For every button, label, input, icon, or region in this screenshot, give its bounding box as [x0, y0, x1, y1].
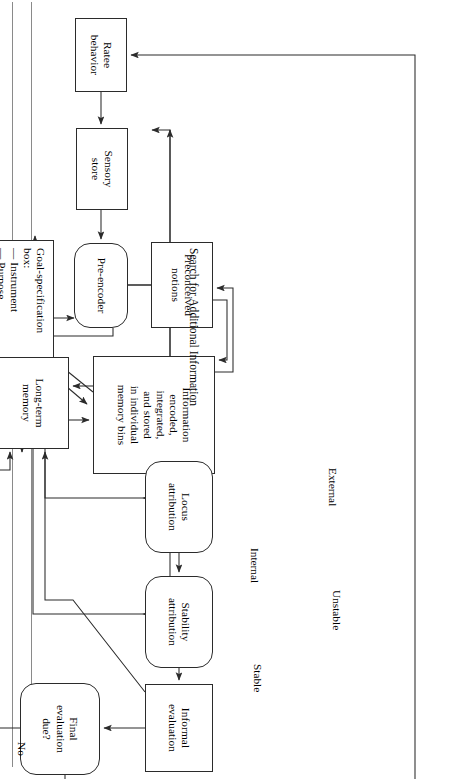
node-sensory-store[interactable]: Sensorystore	[76, 128, 128, 210]
node-label: Rateebehavior	[88, 35, 114, 75]
node-label: Pre-encoder	[94, 258, 107, 314]
node-label: Informationencoded,integrated,and stored…	[115, 385, 194, 445]
node-stability-attribution[interactable]: Stabilityattribution	[145, 576, 213, 668]
edge-label-external: External	[327, 468, 339, 506]
node-locus-attribution[interactable]: Locusattribution	[145, 461, 213, 553]
node-long-term-memory[interactable]: Long-termmemory	[0, 357, 69, 449]
node-label: Informalevaluation	[166, 704, 192, 752]
node-label: Goal-specificationbox:— Instrument— Purp…	[0, 248, 47, 333]
search-channel-label: Search for Additional Information	[186, 248, 199, 406]
node-preconceived-notions[interactable]: Preconceivednotions	[151, 242, 213, 328]
node-label: Long-termmemory	[20, 378, 46, 427]
node-label: Sensorystore	[89, 150, 115, 187]
node-ratee-behavior[interactable]: Rateebehavior	[75, 18, 127, 92]
edge-label-no: No	[16, 742, 28, 756]
node-final-evaluation-due[interactable]: Finalevaluationdue?	[20, 683, 100, 775]
node-label: Finalevaluationdue?	[40, 705, 79, 753]
node-pre-encoder[interactable]: Pre-encoder	[74, 243, 128, 328]
node-goal-specification-box[interactable]: Goal-specificationbox:— Instrument— Purp…	[0, 240, 54, 370]
node-label: Locusattribution	[166, 483, 192, 531]
edge-label-internal: Internal	[249, 548, 261, 583]
edge-label-stable: Stable	[252, 664, 264, 692]
edge-label-unstable: Unstable	[331, 590, 343, 630]
node-label: Stabilityattribution	[166, 598, 192, 646]
node-informal-evaluation[interactable]: Informalevaluation	[145, 684, 213, 772]
edge-label-yes: Yes	[0, 723, 2, 739]
